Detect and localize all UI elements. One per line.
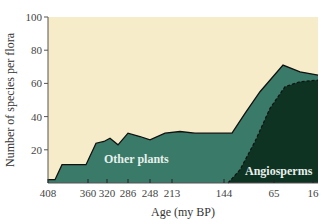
y-axis-title: Number of species per flora xyxy=(3,32,17,167)
x-tick-label: 360 xyxy=(80,187,97,199)
x-tick-label: 65 xyxy=(269,187,281,199)
y-tick-label: 40 xyxy=(31,111,43,123)
x-tick-label: 16 xyxy=(308,187,320,199)
x-tick-label: 408 xyxy=(40,187,57,199)
y-tick-label: 100 xyxy=(26,11,43,23)
x-tick-label: 286 xyxy=(120,187,137,199)
y-ticks: 10080604020 xyxy=(26,11,49,156)
y-tick-label: 60 xyxy=(31,77,43,89)
y-tick-label: 20 xyxy=(31,144,43,156)
x-tick-label: 320 xyxy=(99,187,116,199)
species-richness-chart: 10080604020 4083603202862482131446516 Ot… xyxy=(0,0,330,224)
other-plants-label: Other plants xyxy=(104,152,169,166)
x-tick-label: 248 xyxy=(142,187,159,199)
x-axis-title: Age (my BP) xyxy=(151,205,215,219)
y-tick-label: 80 xyxy=(31,44,43,56)
x-tick-label: 213 xyxy=(164,187,181,199)
angiosperms-label: Angiosperms xyxy=(245,164,313,178)
x-tick-label: 144 xyxy=(216,187,233,199)
